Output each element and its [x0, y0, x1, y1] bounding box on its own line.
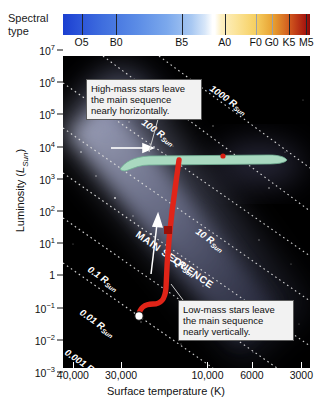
- y-tick-label-5: 102: [39, 204, 55, 218]
- x-tick-label-3: 6000: [240, 369, 263, 381]
- spectral-class-g0: G0: [265, 36, 279, 48]
- y-tick-label-4: 103: [39, 172, 55, 186]
- spectral-class-m5: M5: [299, 36, 314, 48]
- y-tick-label-2: 105: [39, 108, 55, 122]
- spectral-type-label: Spectral type: [8, 12, 60, 37]
- x-tick-label-1: 30,000: [105, 369, 137, 381]
- low-mass-track-marker: [164, 226, 172, 234]
- spectral-class-b0: B0: [110, 36, 123, 48]
- x-axis-tick-labels: 40,00030,00010,00060003000: [0, 369, 332, 383]
- y-tick-label-7: 1: [49, 269, 55, 281]
- x-tick-mark-0: [73, 362, 74, 368]
- low-mass-track-start-circle: [135, 312, 143, 320]
- spectral-class-a0: A0: [218, 36, 231, 48]
- spectral-tick-b5: [182, 14, 183, 35]
- high-mass-arrow: [111, 144, 153, 152]
- y-tick-label-9: 10−2: [35, 333, 55, 347]
- spectral-type-label-line1: Spectral: [8, 12, 60, 25]
- spectral-tick-marks: [63, 14, 310, 35]
- y-tick-label-3: 104: [39, 140, 55, 154]
- spectral-class-b5: B5: [175, 36, 188, 48]
- y-tick-label-8: 10−1: [35, 301, 55, 315]
- low-mass-arrow: [151, 214, 162, 274]
- y-tick-label-0: 107: [39, 43, 55, 57]
- spectral-class-o5: O5: [75, 36, 89, 48]
- x-tick-mark-3: [252, 362, 253, 368]
- spectral-tick-a0: [225, 14, 226, 35]
- spectral-tick-b0: [116, 14, 117, 35]
- x-tick-label-4: 3000: [290, 369, 313, 381]
- high-mass-track-marker: [220, 153, 225, 158]
- spectral-class-k5: K5: [283, 36, 296, 48]
- y-tick-label-6: 101: [39, 236, 55, 250]
- spectral-tick-f0: [256, 14, 257, 35]
- hr-diagram-figure: Spectral type O5B0B5A0F0G0K5M5 Luminosit…: [0, 0, 332, 413]
- callout-low-mass: Low-mass stars leave the main sequence n…: [178, 300, 294, 341]
- y-axis-tick-labels: 107106105104103102101110−110−210−3: [0, 50, 61, 372]
- x-tick-mark-2: [207, 362, 208, 368]
- spectral-tick-m5: [306, 14, 307, 35]
- callout-high-mass: High-mass stars leave the main sequence …: [86, 79, 202, 120]
- spectral-tick-k5: [289, 14, 290, 35]
- y-tick-label-1: 106: [39, 75, 55, 89]
- spectral-tick-o5: [82, 14, 83, 35]
- low-mass-track: [139, 160, 179, 316]
- spectral-class-labels: O5B0B5A0F0G0K5M5: [63, 36, 310, 50]
- spectral-type-label-line2: type: [8, 25, 60, 38]
- x-tick-label-0: 40,000: [57, 369, 89, 381]
- x-tick-mark-1: [121, 362, 122, 368]
- x-axis-title: Surface temperature (K): [0, 385, 332, 397]
- y-tick-mark-0: [57, 50, 63, 51]
- spectral-tick-g0: [272, 14, 273, 35]
- high-mass-track: [120, 155, 287, 171]
- spectral-class-f0: F0: [250, 36, 262, 48]
- x-tick-label-2: 10,000: [191, 369, 223, 381]
- x-tick-mark-4: [301, 362, 302, 368]
